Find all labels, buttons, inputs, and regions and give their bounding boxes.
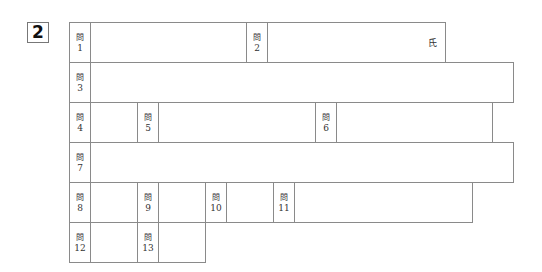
question-label-5: 問5 [137, 102, 159, 143]
answer-box-3[interactable] [90, 62, 514, 103]
answer-box-10[interactable] [226, 182, 274, 223]
question-number: 5 [138, 123, 158, 133]
answer-box-6[interactable] [336, 102, 493, 143]
answer-box-5[interactable] [158, 102, 316, 143]
question-kanji: 問 [70, 73, 90, 83]
question-label-12: 問12 [69, 222, 91, 263]
answer-box-1[interactable] [90, 22, 247, 63]
answer-box-9[interactable] [158, 182, 206, 223]
question-label-10: 問10 [205, 182, 227, 223]
question-label-3: 問3 [69, 62, 91, 103]
answer-box-13[interactable] [158, 222, 206, 263]
answer-box-4[interactable] [90, 102, 138, 143]
question-kanji: 問 [70, 193, 90, 203]
answer-box-7[interactable] [90, 142, 514, 183]
question-kanji: 問 [138, 233, 158, 243]
question-kanji: 問 [70, 113, 90, 123]
question-kanji: 問 [70, 33, 90, 43]
question-label-6: 問6 [315, 102, 337, 143]
question-label-9: 問9 [137, 182, 159, 223]
question-number: 13 [138, 243, 158, 253]
answer-box-2[interactable]: 氏 [267, 22, 446, 63]
question-number: 11 [274, 203, 294, 213]
question-kanji: 問 [247, 33, 267, 43]
question-number: 7 [70, 163, 90, 173]
question-kanji: 問 [206, 193, 226, 203]
question-kanji: 問 [274, 193, 294, 203]
question-kanji: 問 [316, 113, 336, 123]
question-label-4: 問4 [69, 102, 91, 143]
question-number: 10 [206, 203, 226, 213]
question-number: 12 [70, 243, 90, 253]
question-number: 9 [138, 203, 158, 213]
section-number-box: 2 [27, 22, 49, 43]
answer-box-8[interactable] [90, 182, 138, 223]
question-number: 8 [70, 203, 90, 213]
question-label-2: 問2 [246, 22, 268, 63]
question-label-7: 問7 [69, 142, 91, 183]
question-kanji: 問 [138, 113, 158, 123]
question-label-8: 問8 [69, 182, 91, 223]
name-suffix: 氏 [428, 36, 437, 49]
question-kanji: 問 [138, 193, 158, 203]
answer-box-12[interactable] [90, 222, 138, 263]
question-number: 1 [70, 43, 90, 53]
question-label-11: 問11 [273, 182, 295, 223]
question-number: 2 [247, 43, 267, 53]
question-label-1: 問1 [69, 22, 91, 63]
question-label-13: 問13 [137, 222, 159, 263]
question-kanji: 問 [70, 153, 90, 163]
question-number: 6 [316, 123, 336, 133]
question-kanji: 問 [70, 233, 90, 243]
answer-box-11[interactable] [294, 182, 473, 223]
question-number: 3 [70, 83, 90, 93]
question-number: 4 [70, 123, 90, 133]
